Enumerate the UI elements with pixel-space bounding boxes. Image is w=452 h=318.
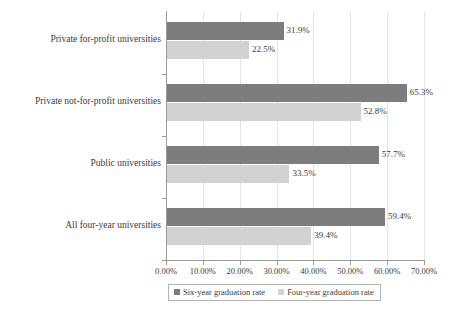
category-label: All four-year universities [6, 220, 166, 231]
bar-value-label: 31.9% [287, 26, 310, 35]
x-axis-tick [350, 261, 351, 265]
x-axis-tick [277, 261, 278, 265]
bar-four-year [166, 103, 361, 121]
legend-label: Four-year graduation rate [287, 287, 374, 297]
x-axis-tick [313, 261, 314, 265]
x-axis-tick-label: 60.00% [374, 266, 400, 276]
plot-area: 31.9%22.5%65.3%52.8%57.7%33.5%59.4%39.4% [166, 12, 424, 260]
legend-swatch-icon [174, 289, 180, 295]
y-axis-tick [162, 198, 166, 199]
y-axis-line [166, 11, 167, 261]
bar-value-label: 65.3% [410, 88, 433, 97]
bar-value-label: 33.5% [292, 169, 315, 178]
bar-value-label: 22.5% [252, 45, 275, 54]
x-axis-tick-label: 50.00% [337, 266, 363, 276]
bar-value-label: 57.7% [382, 150, 405, 159]
legend-label: Six-year graduation rate [183, 287, 265, 297]
bar-four-year [166, 227, 311, 245]
legend-swatch-icon [278, 289, 284, 295]
bar-value-label: 39.4% [314, 231, 337, 240]
chart-legend: Six-year graduation rateFour-year gradua… [168, 284, 381, 301]
bar-four-year [166, 41, 249, 59]
x-axis-tick-label: 20.00% [227, 266, 253, 276]
x-axis-tick-label: 30.00% [263, 266, 289, 276]
category-axis-labels: Private for-profit universitiesPrivate n… [0, 12, 166, 260]
bar-value-label: 59.4% [388, 212, 411, 221]
bar-four-year [166, 165, 289, 183]
x-axis-tick-label: 40.00% [300, 266, 326, 276]
x-axis-tick [203, 261, 204, 265]
category-label: Private not-for-profit universities [6, 96, 166, 107]
x-axis-tick-label: 0.00% [155, 266, 177, 276]
bar-value-label: 52.8% [364, 107, 387, 116]
bar-six-year [166, 208, 385, 226]
x-axis-tick-label: 70.00% [411, 266, 437, 276]
legend-entry: Six-year graduation rate [174, 287, 265, 297]
category-label: Private for-profit universities [6, 34, 166, 45]
y-axis-tick [162, 74, 166, 75]
x-axis-tick [424, 261, 425, 265]
x-axis-tick-label: 10.00% [190, 266, 216, 276]
bar-six-year [166, 84, 407, 102]
gridline [387, 12, 388, 260]
x-axis-tick [387, 261, 388, 265]
gridline [424, 12, 425, 260]
bar-six-year [166, 146, 379, 164]
category-label: Public universities [6, 158, 166, 169]
bar-chart: 31.9%22.5%65.3%52.8%57.7%33.5%59.4%39.4%… [0, 0, 452, 318]
x-axis-tick [240, 261, 241, 265]
x-axis-line [166, 260, 425, 261]
x-axis-tick [166, 261, 167, 265]
y-axis-tick [162, 136, 166, 137]
bar-six-year [166, 22, 284, 40]
legend-entry: Four-year graduation rate [278, 287, 374, 297]
